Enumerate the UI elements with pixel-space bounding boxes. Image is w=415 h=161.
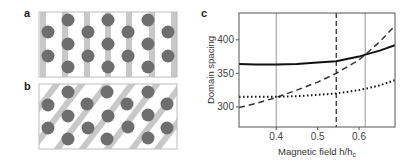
- stripe: [30, 80, 85, 152]
- x-axis-ticks: 0.40.50.6: [269, 127, 366, 142]
- dot: [62, 86, 75, 99]
- dot: [142, 14, 155, 27]
- dot: [42, 50, 55, 63]
- dot: [102, 61, 115, 74]
- dot: [102, 14, 115, 27]
- x-tick-label: 0.5: [311, 131, 325, 142]
- dot: [42, 122, 55, 135]
- dot: [162, 26, 175, 39]
- stripe: [0, 80, 35, 152]
- dot: [101, 86, 114, 99]
- dot: [62, 14, 75, 27]
- dot: [142, 61, 155, 74]
- dot: [162, 50, 175, 63]
- chart-curves: [239, 26, 395, 108]
- dot: [142, 109, 155, 122]
- stripe: [126, 12, 132, 77]
- dot: [122, 50, 135, 63]
- y-axis-label: Domain spacing: [205, 36, 216, 104]
- x-axis-label: Magnetic field h/hc: [278, 146, 356, 158]
- figure-canvas: 0.40.50.6 300350400 Domain spacing Magne…: [0, 0, 415, 161]
- panel-a-lattice: [39, 12, 177, 77]
- stripe: [5, 80, 60, 152]
- dot: [82, 122, 95, 135]
- stripe: [84, 12, 90, 77]
- dot: [142, 86, 155, 99]
- dot: [161, 122, 174, 135]
- dot: [62, 133, 75, 146]
- panel-b-lattice: [0, 80, 210, 152]
- y-tick-label: 300: [217, 101, 234, 112]
- dot: [142, 132, 155, 145]
- stripe: [40, 12, 46, 77]
- curve-solid: [239, 45, 395, 64]
- dot: [122, 121, 135, 134]
- dot: [82, 26, 95, 39]
- dot: [62, 61, 75, 74]
- y-tick-label: 350: [217, 68, 234, 79]
- dot: [81, 98, 94, 111]
- dot: [62, 110, 75, 123]
- dot: [142, 38, 155, 51]
- y-axis-ticks: 300350400: [217, 34, 239, 112]
- vertical-reference-lines: [276, 13, 365, 127]
- y-tick-label: 400: [217, 34, 234, 45]
- plot-frame: [239, 13, 395, 127]
- dot: [101, 133, 114, 146]
- dot: [42, 26, 55, 39]
- dot: [102, 110, 115, 123]
- dot: [121, 98, 134, 111]
- panel-c-chart: 0.40.50.6 300350400 Domain spacing Magne…: [205, 13, 395, 158]
- stripe: [155, 80, 210, 152]
- dot: [42, 99, 55, 112]
- curve-dashed: [239, 26, 395, 108]
- dot: [102, 38, 115, 51]
- dot: [122, 26, 135, 39]
- stripe: [171, 12, 177, 77]
- dot: [161, 98, 174, 111]
- x-tick-label: 0.6: [352, 131, 366, 142]
- dot: [82, 50, 95, 63]
- dot: [62, 38, 75, 51]
- x-tick-label: 0.4: [269, 131, 283, 142]
